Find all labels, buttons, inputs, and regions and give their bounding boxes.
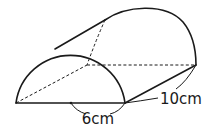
length-label: 10cm [160,90,202,108]
half-cylinder-diagram: 6cm 10cm [0,0,217,130]
front-semicircle-arc [16,55,125,103]
diameter-label: 6cm [82,110,114,128]
top-edge [55,20,105,49]
hidden-back-diameter-left [16,65,87,103]
back-semicircle-arc [105,8,196,65]
